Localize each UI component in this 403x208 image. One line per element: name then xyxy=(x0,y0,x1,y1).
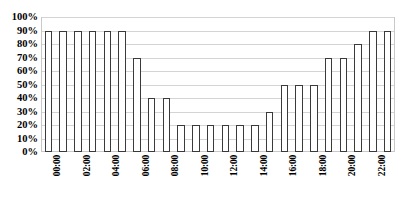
y-axis: 100%90%80%70%60%50%40%30%20%10%0% xyxy=(0,17,38,152)
bar xyxy=(163,98,171,152)
x-tick-label: 12:00 xyxy=(229,155,239,176)
x-tick-label: 14:00 xyxy=(259,155,269,176)
bar xyxy=(118,31,126,153)
y-tick-label: 80% xyxy=(0,39,38,49)
y-tick-label: 40% xyxy=(0,93,38,103)
y-tick-label: 70% xyxy=(0,53,38,63)
bar xyxy=(369,31,377,153)
bar xyxy=(295,85,303,153)
y-tick-label: 20% xyxy=(0,120,38,130)
bar xyxy=(148,98,156,152)
bar xyxy=(177,125,185,152)
bar-chart-figure: 100%90%80%70%60%50%40%30%20%10%0% 00:000… xyxy=(0,0,403,208)
bar xyxy=(236,125,244,152)
x-tick-label: 04:00 xyxy=(111,155,121,176)
x-tick-label: 06:00 xyxy=(141,155,151,176)
bar xyxy=(222,125,230,152)
bar xyxy=(340,58,348,153)
x-tick-label: 00:00 xyxy=(52,155,62,176)
bar xyxy=(266,112,274,153)
bars-layer xyxy=(41,17,395,152)
bar xyxy=(192,125,200,152)
y-tick-label: 0% xyxy=(0,147,38,157)
x-tick-label: 22:00 xyxy=(377,155,387,176)
y-tick-label: 90% xyxy=(0,26,38,36)
y-tick-label: 100% xyxy=(0,12,38,22)
bar xyxy=(74,31,82,153)
x-tick-label: 20:00 xyxy=(347,155,357,176)
y-tick-label: 10% xyxy=(0,134,38,144)
x-tick-label: 10:00 xyxy=(200,155,210,176)
bar xyxy=(251,125,259,152)
x-tick-label: 02:00 xyxy=(82,155,92,176)
y-tick-label: 60% xyxy=(0,66,38,76)
bar xyxy=(281,85,289,153)
x-tick-label: 16:00 xyxy=(288,155,298,176)
y-tick-label: 50% xyxy=(0,80,38,90)
x-tick-label: 08:00 xyxy=(170,155,180,176)
y-tick-label: 30% xyxy=(0,107,38,117)
bar xyxy=(384,31,392,153)
bar xyxy=(59,31,67,153)
figure-caption xyxy=(0,198,403,208)
bar xyxy=(133,58,141,153)
x-axis: 00:0002:0004:0006:0008:0010:0012:0014:00… xyxy=(41,153,395,195)
x-tick-label: 18:00 xyxy=(318,155,328,176)
bar xyxy=(354,44,362,152)
bar xyxy=(310,85,318,153)
bar xyxy=(89,31,97,153)
bar xyxy=(104,31,112,153)
bar xyxy=(45,31,53,153)
bar xyxy=(325,58,333,153)
bar xyxy=(207,125,215,152)
